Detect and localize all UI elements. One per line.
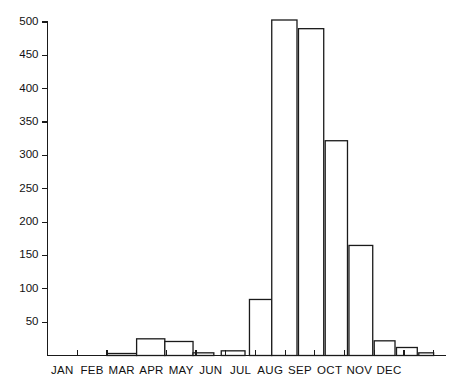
x-tick-label-apr: APR xyxy=(139,364,164,376)
x-tick-label-jan: JAN xyxy=(51,364,74,376)
y-tick-label: 100 xyxy=(19,282,38,294)
bar-apr xyxy=(137,339,165,356)
bar-chart-figure: 50100150200250300350400450500 JANFEBMARA… xyxy=(0,0,465,389)
x-tick-label-jul: JUL xyxy=(230,364,252,376)
bar-sep xyxy=(349,245,373,355)
y-tick-label: 300 xyxy=(19,148,38,160)
x-tick-label-feb: FEB xyxy=(80,364,103,376)
x-tick-label-dec: DEC xyxy=(376,364,401,376)
y-tick-label: 250 xyxy=(19,182,38,194)
axes-group xyxy=(48,22,446,355)
y-tick-label: 50 xyxy=(26,315,39,327)
y-tick-label: 200 xyxy=(19,215,38,227)
y-tick-label: 450 xyxy=(19,48,38,60)
bar-oct xyxy=(374,341,395,356)
bar-aug xyxy=(298,29,323,356)
x-tick-label-may: MAY xyxy=(169,364,194,376)
bar-sep-early xyxy=(325,141,347,356)
y-axis-tick-labels: 50100150200250300350400450500 xyxy=(19,15,38,327)
bar-jul xyxy=(272,20,297,355)
x-tick-label-nov: NOV xyxy=(346,364,372,376)
x-tick-label-aug: AUG xyxy=(257,364,283,376)
bar-jun xyxy=(221,351,245,356)
x-axis-tick-labels: JANFEBMARAPRMAYJUNJULAUGSEPOCTNOVDEC xyxy=(51,364,402,376)
x-tick-label-mar: MAR xyxy=(109,364,135,376)
bar-oct-late xyxy=(396,347,417,355)
axis-lines xyxy=(48,22,446,355)
bar-jul-early xyxy=(249,299,271,355)
y-tick-label: 500 xyxy=(19,15,38,27)
x-tick-label-jun: JUN xyxy=(199,364,222,376)
y-axis-ticks xyxy=(42,22,48,322)
bars-group xyxy=(107,20,434,355)
x-tick-label-sep: SEP xyxy=(288,364,312,376)
chart-canvas: 50100150200250300350400450500 JANFEBMARA… xyxy=(0,0,465,389)
y-tick-label: 150 xyxy=(19,248,38,260)
y-tick-label: 350 xyxy=(19,115,38,127)
bar-may xyxy=(165,341,193,355)
x-tick-label-oct: OCT xyxy=(317,364,342,376)
y-tick-label: 400 xyxy=(19,82,38,94)
